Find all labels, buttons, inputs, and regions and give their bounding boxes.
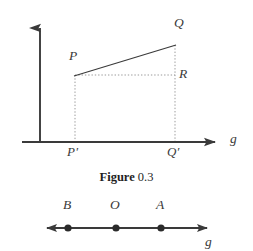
figure-caption: Figure 0.3 bbox=[0, 170, 253, 185]
point-label-r: R bbox=[179, 67, 187, 81]
number-line-dot-b bbox=[64, 224, 71, 231]
number-line-dot-o bbox=[112, 224, 119, 231]
number-line-label-o: O bbox=[110, 198, 120, 212]
figure-caption-number: 0.3 bbox=[138, 170, 154, 184]
axis-label-g-top: g bbox=[230, 132, 237, 146]
segment-p-q bbox=[74, 45, 176, 76]
figure-caption-label: Figure bbox=[100, 170, 135, 184]
point-label-q: Q bbox=[174, 16, 184, 30]
point-label-p: P bbox=[69, 49, 77, 63]
number-line-label-a: A bbox=[156, 198, 164, 212]
point-label-p-prime: P′ bbox=[67, 145, 78, 158]
axis-label-g-bottom: g bbox=[205, 235, 212, 249]
figure-0-3-container: P Q R P′ Q′ g Figure 0.3 B O A g bbox=[0, 0, 253, 251]
point-label-q-prime: Q′ bbox=[167, 145, 180, 158]
number-line-dot-a bbox=[157, 224, 164, 231]
number-line-label-b: B bbox=[63, 198, 71, 212]
figure-drawing bbox=[0, 0, 253, 251]
